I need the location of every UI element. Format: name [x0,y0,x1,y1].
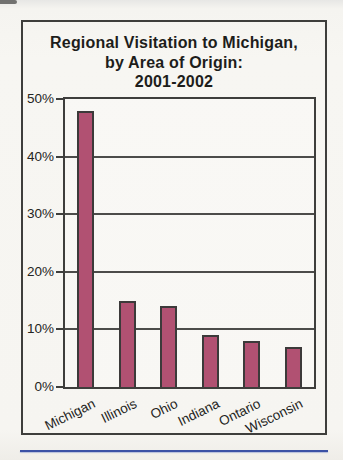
bar-indiana [202,335,219,387]
chart-title: Regional Visitation to Michigan, by Area… [23,33,325,92]
bar-illinois [119,301,136,387]
bar-ontario [243,341,260,387]
y-axis-label-40: 40% [14,149,54,165]
y-gridline-40 [65,156,314,158]
scanned-chart-page: Regional Visitation to Michigan, by Area… [0,0,343,460]
scan-artifact [0,0,17,4]
y-axis-tick-20 [56,271,64,273]
y-axis-label-30: 30% [14,206,54,222]
bar-ohio [160,306,177,387]
y-gridline-20 [65,271,314,273]
bottom-rule [20,450,328,452]
y-axis-label-20: 20% [14,264,54,280]
y-gridline-30 [65,213,314,215]
y-axis-tick-40 [56,156,64,158]
bar-michigan [77,111,94,387]
plot-area [63,97,316,389]
y-axis-tick-0 [56,386,64,388]
y-axis-label-0: 0% [14,379,54,395]
y-axis-tick-50 [56,98,64,100]
y-axis-tick-30 [56,213,64,215]
y-axis-label-50: 50% [14,91,54,107]
y-axis-label-10: 10% [14,321,54,337]
chart-title-line-3: 2001-2002 [23,72,325,92]
chart-title-line-2: by Area of Origin: [23,53,325,73]
bar-wisconsin [285,347,302,387]
chart-title-line-1: Regional Visitation to Michigan, [23,33,325,53]
y-gridline-10 [65,328,314,330]
y-axis-tick-10 [56,328,64,330]
